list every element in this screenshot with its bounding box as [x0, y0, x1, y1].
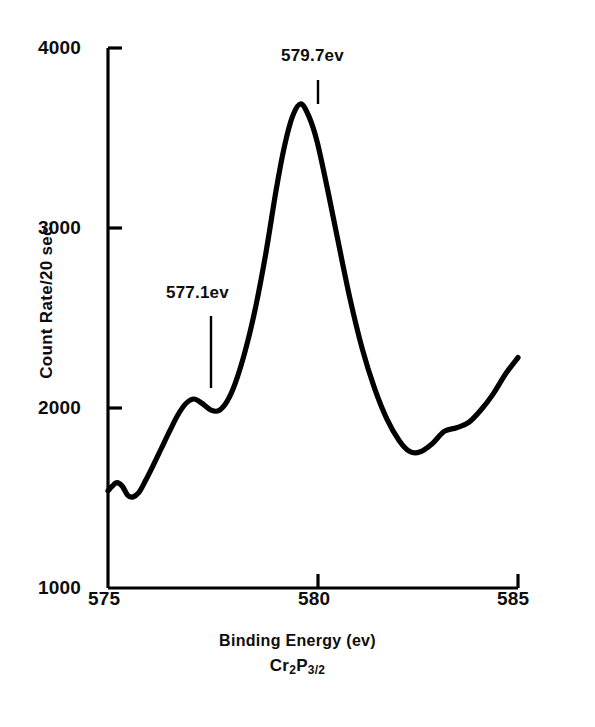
xps-spectrum-figure: 4000 3000 2000 1000 575 580 585 Count Ra…	[0, 0, 595, 727]
x-axis-subtitle-orbital: P	[296, 656, 308, 675]
x-tick-label-580: 580	[298, 588, 330, 610]
annotation-label-577-1: 577.1ev	[166, 283, 229, 303]
x-axis-subtitle: Cr2P3/2	[0, 656, 595, 677]
y-tick-label-4000: 4000	[38, 37, 81, 59]
x-axis-title: Binding Energy (ev)	[0, 632, 595, 650]
annotation-label-579-7: 579.7ev	[281, 46, 344, 66]
x-tick-label-585: 585	[497, 588, 529, 610]
x-axis-subtitle-element: Cr	[270, 656, 290, 675]
y-tick-label-1000: 1000	[38, 577, 81, 599]
y-axis-title: Count Rate/20 sec.	[37, 190, 57, 410]
x-tick-label-575: 575	[88, 588, 120, 610]
x-axis-subtitle-sub2: 3/2	[308, 663, 326, 677]
plot-canvas	[0, 0, 595, 727]
